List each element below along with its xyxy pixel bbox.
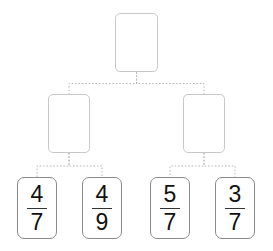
fraction-denominator: 7 xyxy=(227,211,244,234)
tree-node-root[interactable] xyxy=(115,13,158,72)
edge-branch-right-to-leaf-3 xyxy=(170,153,204,177)
fraction-denominator: 9 xyxy=(94,211,111,234)
fraction: 3 7 xyxy=(225,183,245,234)
fraction-denominator: 7 xyxy=(162,211,179,234)
edge-root-to-branch-left xyxy=(69,72,137,94)
edge-branch-right-to-leaf-4 xyxy=(204,153,235,177)
fraction-numerator: 4 xyxy=(94,183,111,206)
edge-branch-left-to-leaf-1 xyxy=(37,153,69,177)
fraction: 4 9 xyxy=(92,183,112,234)
fraction-tree-diagram: 4 7 4 9 5 7 3 7 xyxy=(0,0,273,251)
edge-root-to-branch-right xyxy=(137,72,205,94)
fraction-denominator: 7 xyxy=(29,211,46,234)
fraction-numerator: 4 xyxy=(29,183,46,206)
fraction-card-1[interactable]: 4 7 xyxy=(17,177,57,239)
tree-node-branch-right[interactable] xyxy=(183,94,225,153)
fraction-numerator: 3 xyxy=(227,183,244,206)
fraction-card-4[interactable]: 3 7 xyxy=(215,177,255,239)
fraction-card-3[interactable]: 5 7 xyxy=(150,177,190,239)
fraction-card-2[interactable]: 4 9 xyxy=(82,177,122,239)
fraction: 4 7 xyxy=(27,183,47,234)
tree-node-branch-left[interactable] xyxy=(48,94,90,153)
fraction: 5 7 xyxy=(160,183,180,234)
fraction-numerator: 5 xyxy=(162,183,179,206)
edge-branch-left-to-leaf-2 xyxy=(69,153,102,177)
